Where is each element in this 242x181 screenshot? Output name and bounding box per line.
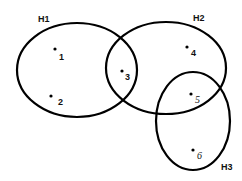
hypergraph-diagram: H1 H2 H3 1 2 3 4 5 6 — [0, 0, 242, 181]
node-1: 1 — [53, 47, 64, 62]
node-1-dot — [53, 47, 56, 50]
node-1-label: 1 — [59, 52, 64, 62]
node-4: 4 — [185, 45, 196, 58]
hyperedge-h3-ellipse — [156, 72, 230, 170]
hyperedge-h2-label: H2 — [193, 13, 205, 23]
node-3-dot — [120, 69, 123, 72]
node-3: 3 — [120, 69, 130, 82]
node-6-label: 6 — [197, 150, 202, 161]
node-2: 2 — [49, 94, 63, 107]
node-6: 6 — [191, 148, 202, 161]
node-5-label: 5 — [195, 94, 200, 105]
hyperedge-h1-ellipse — [17, 23, 137, 117]
hyperedge-h1-label: H1 — [38, 14, 50, 24]
node-5-dot — [189, 92, 192, 95]
node-4-dot — [185, 45, 188, 48]
hyperedge-h2-ellipse — [106, 22, 226, 114]
node-2-dot — [49, 94, 52, 97]
node-3-label: 3 — [125, 72, 130, 82]
node-6-dot — [191, 148, 194, 151]
node-4-label: 4 — [191, 48, 196, 58]
node-5: 5 — [189, 92, 200, 105]
hyperedge-h1: H1 — [17, 14, 137, 117]
node-2-label: 2 — [58, 97, 63, 107]
hyperedge-h3-label: H3 — [221, 162, 233, 172]
